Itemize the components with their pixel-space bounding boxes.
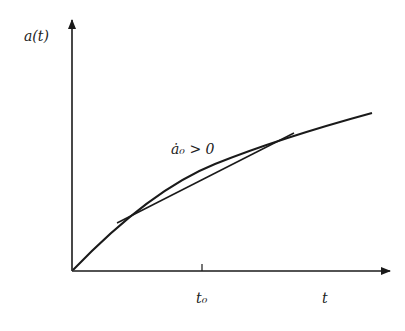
diagram-canvas — [0, 0, 405, 331]
derivative-annotation: ȧ₀ > 0 — [171, 141, 215, 157]
t0-tick-label: t₀ — [196, 290, 207, 306]
x-axis-label: t — [322, 290, 328, 306]
y-axis-label: a(t) — [24, 28, 49, 44]
curve-a-of-t — [73, 113, 372, 270]
